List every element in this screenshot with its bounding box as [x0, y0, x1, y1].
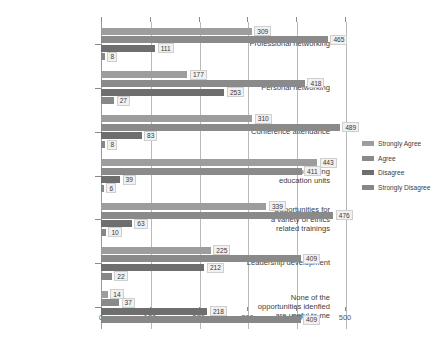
bar: [101, 28, 252, 35]
x-axis-tick-top: [150, 17, 151, 22]
bar: [101, 97, 114, 104]
legend-label: Strongly Agree: [378, 140, 421, 147]
legend-label: Agree: [378, 155, 396, 162]
bar: [101, 229, 106, 236]
gridline: [151, 22, 152, 329]
bar: [101, 132, 142, 139]
x-axis-tick-top: [296, 17, 297, 22]
bar-value-label: 489: [342, 122, 359, 132]
bar-chart: 0100200300400500 Professional networking…: [0, 0, 437, 361]
bar-value-label: 476: [336, 210, 353, 220]
bar-value-label: 6: [106, 183, 116, 193]
bar: [101, 264, 204, 271]
bar-value-label: 8: [107, 140, 117, 150]
bar-value-label: 218: [210, 306, 227, 316]
legend-item[interactable]: Disagree: [362, 169, 430, 176]
bar-value-label: 212: [207, 263, 224, 273]
x-axis-tick-top: [199, 17, 200, 22]
bar: [101, 80, 305, 87]
bar: [101, 124, 340, 131]
bar: [101, 220, 132, 227]
bar: [101, 36, 328, 43]
x-axis-tick: [345, 307, 346, 311]
bar: [101, 168, 302, 175]
legend-label: Strongly Disagree: [378, 184, 430, 191]
bar: [101, 247, 211, 254]
gridline: [346, 22, 347, 329]
bar: [101, 185, 104, 192]
bar: [101, 255, 301, 262]
bar: [101, 45, 155, 52]
x-axis-tick-top: [247, 17, 248, 22]
bar-value-label: 8: [107, 52, 117, 62]
bar-value-label: 310: [255, 114, 272, 124]
bar-value-label: 225: [213, 245, 230, 255]
bar-value-label: 27: [117, 96, 130, 106]
bar-value-label: 22: [114, 271, 127, 281]
bar: [101, 299, 119, 306]
legend-swatch-icon: [362, 141, 374, 146]
x-axis-tick-top: [101, 17, 102, 22]
bar-value-label: 309: [254, 26, 271, 36]
bar-value-label: 418: [307, 78, 324, 88]
bar-value-label: 409: [303, 315, 320, 325]
bar-value-label: 83: [144, 131, 157, 141]
bar: [101, 291, 108, 298]
bar: [101, 89, 224, 96]
bar-value-label: 411: [304, 166, 321, 176]
x-axis-tick-top: [345, 17, 346, 22]
legend-swatch-icon: [362, 170, 374, 175]
bar-value-label: 63: [134, 219, 147, 229]
bar: [101, 273, 112, 280]
legend-item[interactable]: Strongly Agree: [362, 140, 430, 147]
bar: [101, 308, 207, 315]
bar: [101, 115, 252, 122]
legend-item[interactable]: Agree: [362, 155, 430, 162]
legend-swatch-icon: [362, 185, 374, 190]
x-axis-label: 500: [339, 313, 352, 322]
bar: [101, 203, 266, 210]
bar: [101, 141, 105, 148]
bar: [101, 212, 333, 219]
bar-value-label: 253: [227, 87, 244, 97]
gridline: [200, 22, 201, 329]
bar: [101, 53, 105, 60]
bar-value-label: 10: [108, 227, 121, 237]
bar-value-label: 111: [158, 43, 174, 53]
bar-value-label: 443: [320, 158, 337, 168]
bar-value-label: 339: [269, 201, 286, 211]
chart-legend: Strongly AgreeAgreeDisagreeStrongly Disa…: [362, 140, 430, 198]
bar-value-label: 177: [190, 70, 207, 80]
bar: [101, 159, 317, 166]
bar: [101, 71, 187, 78]
bar: [101, 176, 120, 183]
legend-swatch-icon: [362, 156, 374, 161]
bar-value-label: 39: [123, 175, 136, 185]
legend-item[interactable]: Strongly Disagree: [362, 184, 430, 191]
bar-value-label: 37: [122, 298, 135, 308]
bar-value-label: 409: [303, 254, 320, 264]
legend-label: Disagree: [378, 169, 404, 176]
bar-value-label: 465: [330, 35, 347, 45]
bar: [101, 316, 301, 323]
